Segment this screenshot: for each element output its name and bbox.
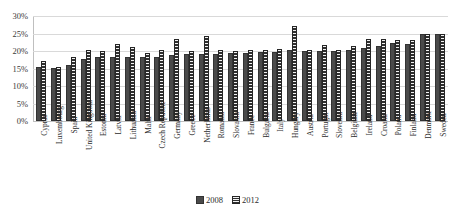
x-axis-category-label: Czech Republic [159,102,166,149]
chart-legend: 20082012 [0,195,455,205]
x-axis-label-cell: Slovenia [329,123,344,189]
bar-group [329,16,344,121]
y-axis-tick-label: 0% [17,117,28,126]
bar-group [432,16,447,121]
x-axis-category-label: Slovenia [336,112,343,138]
x-axis-category-label: Croatia [381,114,388,136]
x-axis-label-cell: Denmark [418,123,433,189]
bar-group [270,16,285,121]
x-axis-category-label: Poland [395,115,402,136]
x-axis-label-cell: Italy [270,123,285,189]
y-axis-tick-label: 15% [12,64,28,73]
x-axis-label-cell: Belgium [344,123,359,189]
x-axis-label-cell: Cyprus [34,123,49,189]
x-axis-label-cell: Germany [167,123,182,189]
x-axis-category-label: Latvia [115,116,122,135]
bar-2012 [233,51,238,121]
x-axis-label-cell: Lithuania [123,123,138,189]
y-axis-tick-label: 25% [12,29,28,38]
bar-2012 [322,45,327,121]
bar-2012 [174,39,179,121]
x-axis-label-cell: Croatia [373,123,388,189]
bar-2012 [425,34,430,121]
bar-chart: 0%5%10%15%20%25%30% CyprusLuxembourgSpai… [0,0,455,214]
bar-group [359,16,374,121]
bar-group [403,16,418,121]
y-axis-tick-label: 30% [12,12,28,21]
x-axis-label-cell: Greece [182,123,197,189]
x-axis-label-cell: Slovakia [226,123,241,189]
bar-2012 [41,61,46,121]
x-axis-label-cell: Finland [403,123,418,189]
x-axis-label-cell: France [241,123,256,189]
x-axis-category-label: Italy [277,118,284,132]
y-axis-tick-labels: 0%5%10%15%20%25%30% [0,0,31,135]
bar-2012 [351,46,356,121]
x-axis-category-labels: CyprusLuxembourgSpainUnited KingdomEston… [33,123,448,189]
bar-group [285,16,300,121]
x-axis-label-cell: United Kingdom [78,123,93,189]
bar-group [255,16,270,121]
bar-2012 [292,26,297,121]
bar-group [300,16,315,121]
bar-group [182,16,197,121]
x-axis-category-label: Malta [145,116,152,133]
bar-group [108,16,123,121]
bar-groups [33,16,448,121]
y-axis-tick-label: 10% [12,82,28,91]
x-axis-category-label: Cyprus [41,114,48,135]
x-axis-category-label: Portugal [322,112,329,137]
x-axis-label-cell: Spain [64,123,79,189]
bar-2012 [115,44,120,121]
bar-2012 [395,40,400,121]
x-axis-label-cell: Estonia [93,123,108,189]
legend-item-2008[interactable]: 2008 [196,195,223,205]
x-axis-category-label: Netherlands [204,107,211,143]
bar-2012 [277,49,282,121]
x-axis-label-cell: Ireland [359,123,374,189]
bar-2012 [307,50,312,121]
x-axis-category-label: Austria [307,114,314,136]
legend-swatch-icon [232,196,240,204]
y-axis-tick-label: 20% [12,47,28,56]
x-axis-category-label: Romania [218,112,225,139]
x-axis-category-label: Germany [174,111,181,139]
x-axis-label-cell: Netherlands [196,123,211,189]
x-axis-category-label: Belgium [351,112,358,137]
x-axis-category-label: Hungary [292,112,299,138]
bar-group [373,16,388,121]
y-axis-tick-label: 5% [17,99,28,108]
bar-group [226,16,241,121]
x-axis-label-cell: Portugal [314,123,329,189]
x-axis-label-cell: Hungary [285,123,300,189]
x-axis-category-label: Bulgaria [263,112,270,137]
bar-group [418,16,433,121]
bar-2012 [100,51,105,121]
x-axis-label-cell: Bulgaria [255,123,270,189]
bar-2012 [189,51,194,121]
x-axis-category-label: Finland [410,114,417,137]
bar-group [388,16,403,121]
x-axis-label-cell: Sweden [432,123,447,189]
bar-group [34,16,49,121]
x-axis-category-label: France [248,115,255,135]
x-axis-category-label: Estonia [100,114,107,136]
bar-2012 [71,57,76,121]
bar-group [167,16,182,121]
bar-2012 [145,53,150,121]
x-axis-category-label: Lithuania [130,111,137,139]
bar-2012 [381,39,386,121]
bar-group [211,16,226,121]
bar-group [123,16,138,121]
bar-2012 [263,50,268,121]
legend-swatch-icon [196,196,204,204]
bar-group [344,16,359,121]
x-axis-label-cell: Latvia [108,123,123,189]
plot-area [33,16,448,121]
bar-2012 [336,50,341,121]
legend-item-2012[interactable]: 2012 [232,195,259,205]
x-axis-label-cell: Austria [300,123,315,189]
bar-group [196,16,211,121]
bar-group [64,16,79,121]
x-axis-category-label: Slovakia [233,112,240,138]
